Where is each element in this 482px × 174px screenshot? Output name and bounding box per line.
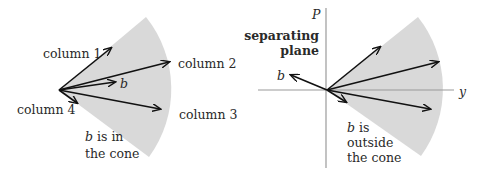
caption-text: is in <box>93 129 123 144</box>
cone-caption-line1: b is in <box>85 129 123 144</box>
b-label: b <box>277 68 285 83</box>
column4-label: column 4 <box>17 102 75 117</box>
caption-b: b <box>347 120 355 135</box>
b-arrow <box>291 75 327 90</box>
column2-label: column 2 <box>178 56 236 71</box>
outside-caption-line3: the cone <box>347 150 401 165</box>
column1-label: column 1 <box>43 46 101 61</box>
left-panel: column 1 column 2 b column 3 column 4 b … <box>17 17 237 161</box>
outside-caption-line1: b is <box>347 120 369 135</box>
cone-caption-line2: the cone <box>85 146 139 161</box>
cone-diagram: column 1 column 2 b column 3 column 4 b … <box>0 0 482 174</box>
caption-text: is <box>355 120 369 135</box>
separating-plane-label-line1: separating <box>244 28 319 43</box>
right-panel: P y separating plane b b is outside the … <box>244 7 467 168</box>
separating-plane-label-line2: plane <box>280 43 319 58</box>
caption-b: b <box>85 129 93 144</box>
b-label: b <box>120 76 128 91</box>
p-axis-label: P <box>311 7 321 22</box>
y-axis-label: y <box>458 84 467 99</box>
outside-caption-line2: outside <box>347 135 393 150</box>
column3-label: column 3 <box>179 107 237 122</box>
